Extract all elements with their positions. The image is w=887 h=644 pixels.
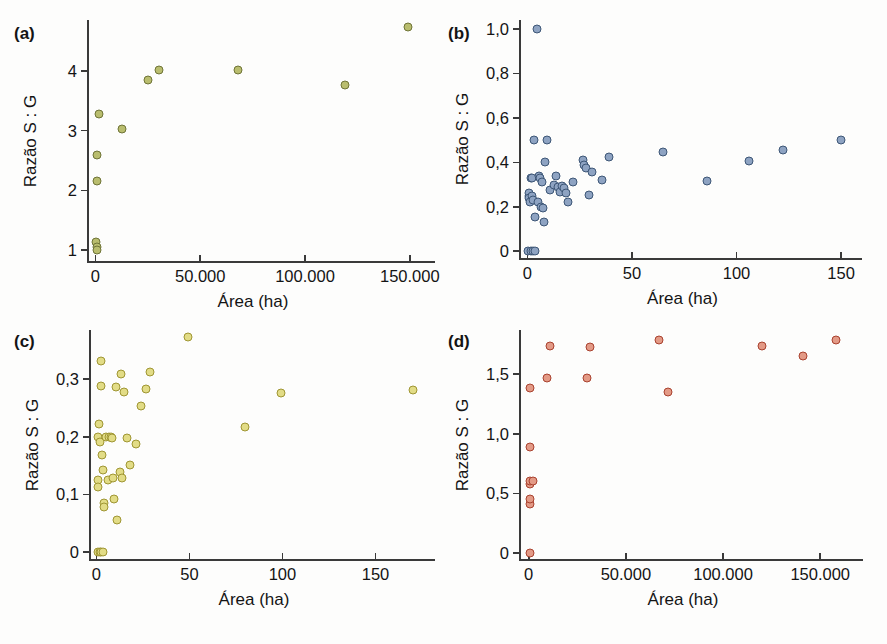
x-tick-label-d-1: 50.000 [601, 565, 651, 584]
data-point [757, 341, 766, 350]
data-point [583, 373, 592, 382]
figure-canvas: (a)1234050.000100.000150.000Área (ha)Raz… [0, 0, 887, 644]
y-tick-d-2 [513, 433, 520, 435]
data-point [528, 477, 537, 486]
y-tick-d-0 [513, 552, 520, 554]
data-point [525, 549, 534, 558]
data-point [585, 342, 594, 351]
data-point [663, 388, 672, 397]
y-tick-d-1 [513, 493, 520, 495]
data-point [546, 341, 555, 350]
x-axis-line-d [519, 559, 863, 561]
data-point [543, 373, 552, 382]
x-tick-label-d-2: 100.000 [693, 565, 753, 584]
data-point [526, 384, 535, 393]
data-point [526, 442, 535, 451]
y-axis-line-d [519, 330, 521, 559]
data-point [798, 352, 807, 361]
data-point [654, 335, 663, 344]
y-tick-d-3 [513, 373, 520, 375]
x-tick-d-2 [722, 553, 724, 560]
y-axis-title-d: Razão S : G [453, 330, 473, 559]
x-tick-d-1 [625, 553, 627, 560]
x-tick-label-d-0: 0 [524, 565, 533, 584]
x-tick-d-3 [819, 553, 821, 560]
x-axis-title-d: Área (ha) [648, 590, 719, 610]
x-tick-label-d-3: 150.000 [790, 565, 850, 584]
chart-panel-d: (d)00,51,01,5050.000100.000150.000Área (… [0, 0, 887, 644]
data-point [525, 495, 534, 504]
data-point [831, 335, 840, 344]
